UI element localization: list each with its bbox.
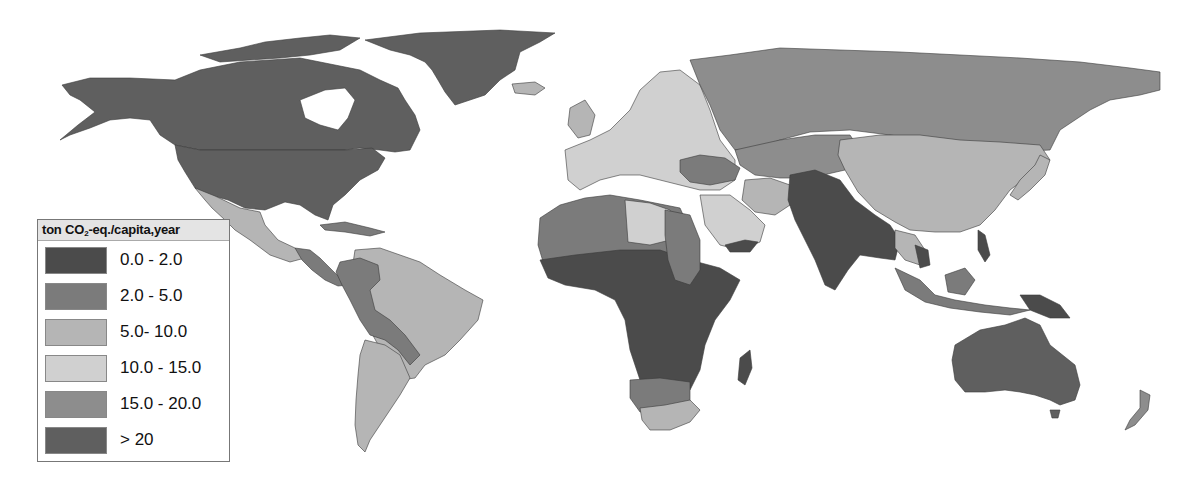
legend-swatch <box>45 391 107 418</box>
legend-label: > 20 <box>120 430 154 450</box>
legend-swatch <box>45 283 107 310</box>
region-tasmania <box>1050 410 1060 418</box>
legend-item: > 20 <box>45 427 225 455</box>
region-canada-alaska <box>60 58 420 152</box>
legend-swatch <box>45 427 107 454</box>
legend-swatch <box>45 247 107 274</box>
legend-label: 0.0 - 2.0 <box>120 250 182 270</box>
legend-item: 2.0 - 5.0 <box>45 283 225 311</box>
legend-label: 10.0 - 15.0 <box>120 358 201 378</box>
region-new-zealand <box>1125 390 1150 430</box>
region-vietnam <box>915 245 930 268</box>
legend-swatch <box>45 319 107 346</box>
legend-title-prefix: ton CO <box>42 222 84 237</box>
region-uk <box>568 100 595 138</box>
legend-item: 10.0 - 15.0 <box>45 355 225 383</box>
legend-label: 5.0- 10.0 <box>120 322 187 342</box>
legend-swatch <box>45 355 107 382</box>
legend-item: 15.0 - 20.0 <box>45 391 225 419</box>
region-sub-saharan-africa <box>540 250 740 390</box>
region-australia <box>952 318 1080 405</box>
legend-label: 15.0 - 20.0 <box>120 394 201 414</box>
region-png <box>1020 295 1070 318</box>
legend-title-suffix: -eq./capita,year <box>88 222 179 237</box>
region-philippines <box>978 230 990 262</box>
legend-item: 5.0- 10.0 <box>45 319 225 347</box>
region-usa <box>175 145 385 220</box>
region-madagascar <box>738 350 752 385</box>
region-arctic-islands <box>200 35 360 62</box>
region-borneo <box>945 268 975 295</box>
region-iceland <box>512 82 545 95</box>
region-caribbean <box>320 222 385 236</box>
legend-item: 0.0 - 2.0 <box>45 247 225 275</box>
map-legend: ton CO2-eq./capita,year 0.0 - 2.0 2.0 - … <box>37 219 230 462</box>
legend-label: 2.0 - 5.0 <box>120 286 182 306</box>
legend-title: ton CO2-eq./capita,year <box>38 220 229 241</box>
